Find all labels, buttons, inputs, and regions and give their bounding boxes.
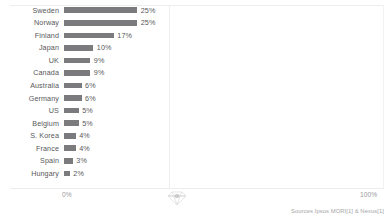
bar-track: 5% xyxy=(64,104,391,117)
bar-row: Canada9% xyxy=(0,67,391,80)
value-label: 4% xyxy=(76,132,90,139)
value-label: 5% xyxy=(79,107,93,114)
bar-track: 4% xyxy=(64,129,391,142)
bar-track: 6% xyxy=(64,79,391,92)
value-label: 5% xyxy=(79,120,93,127)
bar-row: Australia6% xyxy=(0,79,391,92)
category-label: S. Korea xyxy=(0,132,64,139)
value-label: 9% xyxy=(90,69,104,76)
category-label: Spain xyxy=(0,157,64,164)
bar-row: Spain3% xyxy=(0,155,391,168)
bar[interactable] xyxy=(64,145,76,151)
category-label: Germany xyxy=(0,95,64,102)
bar[interactable] xyxy=(64,45,93,51)
bar-track: 9% xyxy=(64,54,391,67)
bar-track: 10% xyxy=(64,42,391,55)
bar-track: 25% xyxy=(64,17,391,30)
category-label: France xyxy=(0,145,64,152)
bar[interactable] xyxy=(64,133,76,139)
category-label: Japan xyxy=(0,44,64,51)
bar-row: US5% xyxy=(0,104,391,117)
value-label: 10% xyxy=(93,44,111,51)
bar-row: Norway25% xyxy=(0,17,391,30)
bar-row: France4% xyxy=(0,142,391,155)
bar[interactable] xyxy=(64,7,137,13)
value-label: 6% xyxy=(82,82,96,89)
category-label: Norway xyxy=(0,19,64,26)
value-label: 6% xyxy=(82,95,96,102)
axis-max-label: 100% xyxy=(360,191,377,198)
bar-row: Japan10% xyxy=(0,42,391,55)
bar-row: Finland17% xyxy=(0,29,391,42)
bar-row: UK9% xyxy=(0,54,391,67)
bar-track: 6% xyxy=(64,92,391,105)
bar-row: Hungary2% xyxy=(0,167,391,180)
bar-track: 2% xyxy=(64,167,391,180)
bar-track: 17% xyxy=(64,29,391,42)
bar[interactable] xyxy=(64,33,114,39)
value-label: 4% xyxy=(76,145,90,152)
bar-track: 3% xyxy=(64,155,391,168)
axis-min-label: 0% xyxy=(62,191,72,198)
bar[interactable] xyxy=(64,158,73,164)
value-label: 17% xyxy=(114,32,132,39)
slide-canvas: Sweden25%Norway25%Finland17%Japan10%UK9%… xyxy=(0,0,391,223)
category-label: Finland xyxy=(0,32,64,39)
bar-row: Germany6% xyxy=(0,92,391,105)
bar[interactable] xyxy=(64,120,79,126)
value-label: 25% xyxy=(137,19,155,26)
bar-row: S. Korea4% xyxy=(0,129,391,142)
bar-track: 25% xyxy=(64,4,391,17)
bar[interactable] xyxy=(64,70,90,76)
bar[interactable] xyxy=(64,95,82,101)
source-note: Sources Ipsos MORI[1] & Nexus[1] xyxy=(291,208,384,214)
value-label: 2% xyxy=(70,170,84,177)
category-label: US xyxy=(0,107,64,114)
category-label: Canada xyxy=(0,69,64,76)
bar[interactable] xyxy=(64,83,82,89)
frame-line-bottom xyxy=(10,188,384,189)
category-label: Australia xyxy=(0,82,64,89)
diamond-icon xyxy=(166,190,188,207)
bar-chart: Sweden25%Norway25%Finland17%Japan10%UK9%… xyxy=(0,4,391,188)
bar-track: 9% xyxy=(64,67,391,80)
bar-track: 4% xyxy=(64,142,391,155)
category-label: Sweden xyxy=(0,7,64,14)
bar-track: 5% xyxy=(64,117,391,130)
category-label: Hungary xyxy=(0,170,64,177)
value-label: 9% xyxy=(90,57,104,64)
category-label: Belgium xyxy=(0,120,64,127)
value-label: 25% xyxy=(137,7,155,14)
bar[interactable] xyxy=(64,108,79,114)
bar[interactable] xyxy=(64,58,90,64)
bar-row: Sweden25% xyxy=(0,4,391,17)
bar-row: Belgium5% xyxy=(0,117,391,130)
value-label: 3% xyxy=(73,157,87,164)
category-label: UK xyxy=(0,57,64,64)
bar[interactable] xyxy=(64,20,137,26)
